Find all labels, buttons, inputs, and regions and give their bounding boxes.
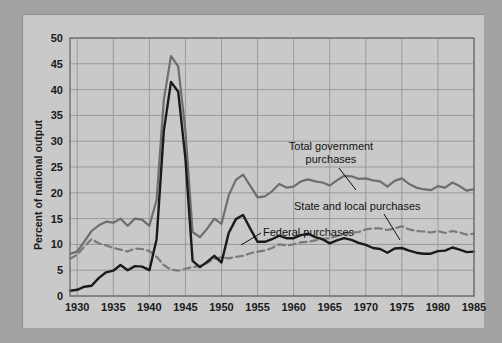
y-tick-label: 10 (51, 238, 63, 250)
x-tick-label: 1985 (462, 301, 486, 313)
y-tick-label: 0 (57, 290, 63, 302)
x-tick-label: 1930 (65, 301, 89, 313)
x-tick-label: 1980 (426, 301, 450, 313)
x-axis-tick-labels: 1930193519401945195019551960196519701975… (65, 301, 486, 313)
annotation-state-local-label: State and local purchases (294, 200, 421, 212)
data-series-group (70, 56, 474, 291)
y-tick-label: 5 (57, 264, 63, 276)
y-axis-title: Percent of national output (32, 119, 44, 250)
y-tick-label: 40 (51, 84, 63, 96)
y-tick-label: 35 (51, 109, 63, 121)
y-axis-tick-labels: 05101520253035404550 (51, 32, 63, 302)
x-tick-label: 1945 (173, 301, 197, 313)
x-tick-label: 1970 (354, 301, 378, 313)
leader-line-total-government (339, 168, 356, 190)
x-tick-label: 1955 (245, 301, 269, 313)
x-tick-label: 1950 (209, 301, 233, 313)
y-tick-label: 25 (51, 161, 63, 173)
x-tick-label: 1965 (317, 301, 341, 313)
y-tick-label: 45 (51, 58, 63, 70)
x-tick-label: 1935 (101, 301, 125, 313)
annotation-total-government-line1: Total government (289, 140, 373, 152)
series-total-government-purchases (70, 56, 474, 254)
x-tick-label: 1960 (281, 301, 305, 313)
gridlines (70, 38, 474, 296)
annotation-total-government-line2: purchases (306, 153, 357, 165)
annotation-total-government: Total government purchases (289, 140, 373, 190)
y-tick-label: 15 (51, 213, 63, 225)
y-tick-label: 20 (51, 187, 63, 199)
line-chart: 05101520253035404550 1930193519401945195… (0, 0, 502, 343)
annotation-federal-label: Federal purchases (263, 226, 355, 238)
y-tick-label: 30 (51, 135, 63, 147)
x-tick-label: 1975 (390, 301, 414, 313)
x-tick-label: 1940 (137, 301, 161, 313)
y-tick-label: 50 (51, 32, 63, 44)
figure-frame: 05101520253035404550 1930193519401945195… (0, 0, 502, 343)
